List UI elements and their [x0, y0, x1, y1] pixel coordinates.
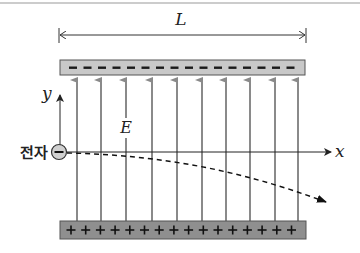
bottom-plate-positive	[60, 221, 306, 239]
minus-sign	[214, 67, 222, 69]
minus-sign	[243, 67, 251, 69]
minus-sign	[272, 67, 280, 69]
minus-sign	[84, 67, 92, 69]
minus-sign	[258, 67, 266, 69]
minus-sign	[229, 67, 237, 69]
x-axis-label: x	[335, 141, 345, 161]
diagram-canvas: L E y x 전자	[0, 0, 360, 253]
top-plate-negative	[60, 60, 305, 75]
y-axis-label: y	[41, 83, 52, 103]
electron-trajectory	[67, 153, 326, 202]
minus-sign	[200, 67, 208, 69]
minus-sign	[156, 67, 164, 69]
field-lines	[77, 80, 298, 221]
minus-sign	[287, 67, 295, 69]
length-label: L	[174, 9, 186, 29]
minus-sign	[171, 67, 179, 69]
electron	[52, 145, 67, 160]
field-label-E: E	[119, 118, 132, 137]
minus-sign	[69, 67, 77, 69]
minus-sign	[98, 67, 106, 69]
minus-sign	[113, 67, 121, 69]
length-dimension: L	[59, 9, 306, 43]
minus-sign	[127, 67, 135, 69]
minus-sign	[185, 67, 193, 69]
minus-sign	[142, 67, 150, 69]
electron-label: 전자	[20, 144, 48, 162]
